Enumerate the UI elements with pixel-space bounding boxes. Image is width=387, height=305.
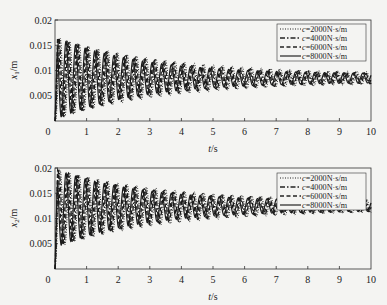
x-tick-label: 9 xyxy=(337,274,342,285)
legend: c=2000N·s/m c=4000N·s/m c=6000N·s/m c=80… xyxy=(277,24,366,61)
x-axis-label: t/s xyxy=(208,143,218,154)
y-tick-label: 0.015 xyxy=(30,188,53,199)
x-tick-label: 2 xyxy=(116,274,121,285)
x-tick-label: 8 xyxy=(305,274,310,285)
x-tick-label: 5 xyxy=(211,274,216,285)
y-tick-label: 0.005 xyxy=(30,90,53,101)
x-tick-label: 5 xyxy=(211,126,216,137)
subplot-x2: 0123456789100.0050.010.0150.02 x2/m t/s … xyxy=(8,163,376,303)
x-tick-label: 3 xyxy=(147,274,152,285)
x-tick-label: 4 xyxy=(179,126,184,137)
x-tick-label: 0 xyxy=(46,274,51,285)
legend-label: c=6000N·s/m xyxy=(302,43,348,52)
figure: 0123456789100.0050.010.0150.02 x1/m t/s … xyxy=(0,0,387,305)
y-tick-label: 0.01 xyxy=(35,213,53,224)
legend: c=2000N·s/m c=4000N·s/m c=6000N·s/m c=80… xyxy=(277,173,366,210)
subplot-x1: 0123456789100.0050.010.0150.02 x1/m t/s … xyxy=(8,15,376,155)
y-tick-label: 0.02 xyxy=(35,15,53,26)
x-tick-label: 4 xyxy=(179,274,184,285)
legend-label: c=4000N·s/m xyxy=(302,34,348,43)
x-tick-label: 7 xyxy=(274,274,279,285)
x-tick-label: 0 xyxy=(46,126,51,137)
x-tick-label: 8 xyxy=(305,126,310,137)
y-axis-label: x2/m xyxy=(8,209,21,229)
x-tick-label: 3 xyxy=(147,126,152,137)
x-tick-label: 6 xyxy=(242,274,247,285)
y-axis-label: x1/m xyxy=(8,61,21,81)
x-tick-label: 10 xyxy=(366,126,376,137)
y-tick-label: 0.01 xyxy=(35,65,53,76)
x-tick-label: 7 xyxy=(274,126,279,137)
legend-label: c=4000N·s/m xyxy=(302,183,348,192)
x-tick-label: 1 xyxy=(84,126,89,137)
y-tick-label: 0.015 xyxy=(30,40,53,51)
legend-label: c=2000N·s/m xyxy=(302,174,348,183)
legend-label: c=8000N·s/m xyxy=(302,201,348,210)
legend-label: c=6000N·s/m xyxy=(302,192,348,201)
x-tick-label: 10 xyxy=(366,274,376,285)
x-axis-label: t/s xyxy=(208,291,218,302)
x-tick-label: 2 xyxy=(116,126,121,137)
legend-label: c=2000N·s/m xyxy=(302,25,348,34)
x-tick-label: 1 xyxy=(84,274,89,285)
y-tick-label: 0.02 xyxy=(35,163,53,174)
legend-label: c=8000N·s/m xyxy=(302,52,348,61)
x-tick-label: 9 xyxy=(337,126,342,137)
x-tick-label: 6 xyxy=(242,126,247,137)
y-tick-label: 0.005 xyxy=(30,238,53,249)
